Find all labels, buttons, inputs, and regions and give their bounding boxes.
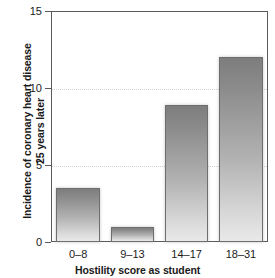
x-tick-label-3: 18–31: [214, 248, 268, 260]
bars-layer: [51, 11, 268, 242]
y-axis-title: Incidence of coronary heart disease 25 y…: [21, 11, 47, 251]
bar-1[interactable]: [111, 227, 154, 242]
x-tick-label-0: 0–8: [51, 248, 105, 260]
y-tick-mark-0: [45, 242, 51, 243]
x-tick-label-2: 14–17: [160, 248, 214, 260]
bar-0[interactable]: [56, 188, 99, 242]
y-tick-label-10: 10: [2, 83, 42, 94]
x-axis-tick-labels: 0–8 9–13 14–17 18–31: [51, 248, 268, 262]
x-axis-title: Hostility score as student: [0, 264, 275, 276]
y-tick-label-0: 0: [2, 237, 42, 248]
y-tick-label-5: 5: [2, 160, 42, 171]
bar-3[interactable]: [219, 57, 262, 242]
y-tick-label-15: 15: [2, 6, 42, 17]
x-tick-label-1: 9–13: [105, 248, 159, 260]
y-axis-title-line-2: 25 years later: [34, 11, 47, 251]
bar-chart: Incidence of coronary heart disease 25 y…: [0, 0, 275, 278]
y-axis-title-line-1: Incidence of coronary heart disease: [21, 11, 34, 251]
bar-2[interactable]: [165, 105, 208, 242]
